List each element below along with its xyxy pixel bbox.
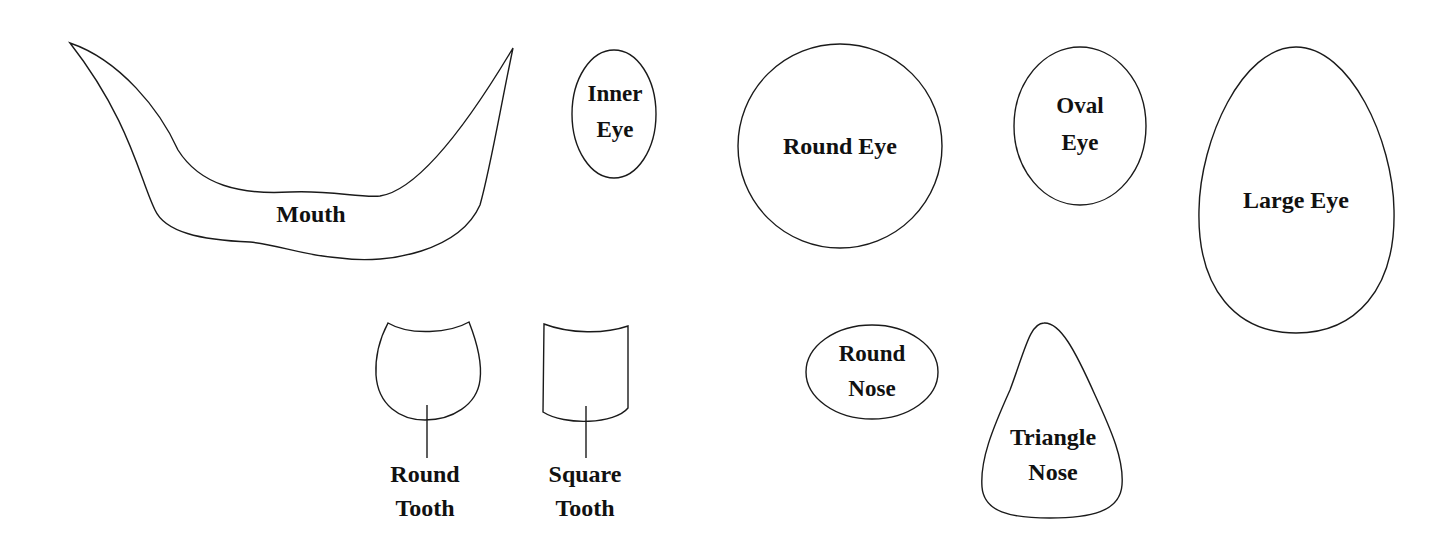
oval-eye-label-line-1: Oval bbox=[1056, 93, 1103, 118]
large-eye-shape: Large Eye bbox=[1199, 47, 1394, 333]
round-nose-label-line-1: Round bbox=[839, 341, 906, 366]
square-tooth-label-line-2: Tooth bbox=[555, 495, 614, 521]
inner-eye-shape: Inner Eye bbox=[572, 50, 656, 178]
oval-eye-shape: Oval Eye bbox=[1014, 47, 1146, 205]
round-eye-label: Round Eye bbox=[783, 133, 897, 159]
round-nose-label-line-2: Nose bbox=[848, 376, 895, 401]
round-eye-shape: Round Eye bbox=[738, 44, 942, 248]
round-tooth-shape: Round Tooth bbox=[376, 322, 481, 521]
round-tooth-label-line-1: Round bbox=[390, 461, 460, 487]
round-nose-outline bbox=[806, 325, 938, 419]
round-tooth-label-line-2: Tooth bbox=[395, 495, 454, 521]
mouth-outline bbox=[70, 43, 513, 260]
inner-eye-outline bbox=[572, 50, 656, 178]
mouth-shape: Mouth bbox=[70, 43, 513, 260]
triangle-nose-outline bbox=[982, 323, 1122, 518]
oval-eye-outline bbox=[1014, 47, 1146, 205]
square-tooth-shape: Square Tooth bbox=[543, 324, 628, 521]
face-parts-template: Mouth Inner Eye Round Eye Oval Eye Large… bbox=[0, 0, 1450, 551]
round-tooth-outline bbox=[376, 322, 481, 420]
oval-eye-label-line-2: Eye bbox=[1061, 130, 1098, 155]
triangle-nose-label-line-2: Nose bbox=[1028, 459, 1078, 485]
large-eye-label: Large Eye bbox=[1243, 187, 1349, 213]
triangle-nose-shape: Triangle Nose bbox=[982, 323, 1122, 518]
inner-eye-label-line-1: Inner bbox=[588, 81, 643, 106]
triangle-nose-label-line-1: Triangle bbox=[1010, 424, 1097, 450]
inner-eye-label-line-2: Eye bbox=[596, 117, 633, 142]
square-tooth-label-line-1: Square bbox=[549, 461, 622, 487]
mouth-label: Mouth bbox=[276, 201, 345, 227]
round-nose-shape: Round Nose bbox=[806, 325, 938, 419]
